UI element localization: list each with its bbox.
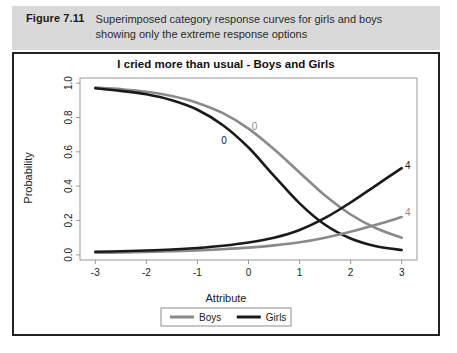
curve-label-girls-0: 0 <box>221 135 227 146</box>
chart-title: I cried more than usual - Boys and Girls <box>117 58 334 70</box>
figure-page: Figure 7.11 Superimposed category respon… <box>0 0 457 353</box>
figure-caption-text: Superimposed category response curves fo… <box>96 12 383 42</box>
x-axis-title: Attribute <box>206 292 247 304</box>
x-tick-label: 2 <box>348 267 354 278</box>
y-tick-label: 0.8 <box>63 110 74 124</box>
curve-girls-category-0 <box>95 88 401 250</box>
x-tick-label: -3 <box>91 267 100 278</box>
x-tick-label: -1 <box>193 267 202 278</box>
figure-caption-line-1: Superimposed category response curves fo… <box>96 13 383 25</box>
y-tick-label: 0.2 <box>63 213 74 227</box>
figure-frame: I cried more than usual - Boys and Girls… <box>12 52 440 336</box>
plot-frame <box>80 78 417 260</box>
y-tick-label: 0.4 <box>63 179 74 193</box>
y-tick-label: 0.6 <box>63 144 74 158</box>
legend-label-boys: Boys <box>199 312 221 323</box>
chart-legend: BoysGirls <box>161 308 291 326</box>
y-axis-title: Probability <box>22 152 34 204</box>
legend-label-girls: Girls <box>266 312 287 323</box>
y-tick-label: 1.0 <box>63 76 74 90</box>
figure-caption-band: Figure 7.11 Superimposed category respon… <box>12 6 440 50</box>
x-tick-label: 1 <box>297 267 303 278</box>
x-tick-label: 3 <box>399 267 405 278</box>
curve-label-boys-0: 0 <box>252 121 258 132</box>
curve-category-labels: 0044 <box>221 121 411 219</box>
figure-number-label: Figure 7.11 <box>26 12 85 24</box>
curve-label-boys-4: 4 <box>405 207 411 218</box>
y-tick-label: 0.0 <box>63 247 74 261</box>
chart-container: I cried more than usual - Boys and Girls… <box>14 54 438 334</box>
curve-boys-category-0 <box>95 87 401 237</box>
curve-label-girls-4: 4 <box>405 160 411 171</box>
curve-boys-category-4 <box>95 217 401 253</box>
x-tick-label: -2 <box>142 267 151 278</box>
figure-caption: Figure 7.11 Superimposed category respon… <box>26 12 434 42</box>
figure-caption-line-2: showing only the extreme response option… <box>96 27 383 42</box>
curve-series-group <box>95 87 401 252</box>
x-tick-label: 0 <box>246 267 252 278</box>
response-curves-chart: I cried more than usual - Boys and Girls… <box>14 54 438 334</box>
